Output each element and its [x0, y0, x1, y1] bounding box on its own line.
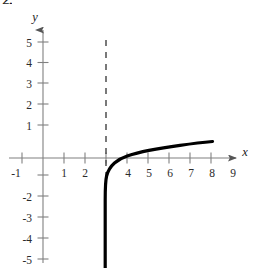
x-tick-label-4: 4 — [125, 167, 131, 179]
coordinate-plot: -1 1 2 4 5 6 7 8 9 5 4 3 2 1 -2 -3 -4 -5… — [0, 0, 260, 268]
y-tick-label-5: 5 — [26, 37, 32, 49]
x-tick-label-neg1: -1 — [11, 167, 21, 179]
x-axis-label: x — [241, 145, 248, 159]
y-tick-label-3: 3 — [26, 78, 32, 90]
y-axis-tick-labels: 5 4 3 2 1 -2 -3 -4 -5 — [22, 37, 32, 266]
x-tick-label-7: 7 — [188, 167, 194, 179]
y-axis-label: y — [30, 10, 38, 24]
x-tick-label-9: 9 — [230, 167, 236, 179]
x-axis-tick-labels: -1 1 2 4 5 6 7 8 9 — [11, 167, 236, 179]
x-tick-label-8: 8 — [209, 167, 215, 179]
figure-container: 2. — [0, 0, 260, 268]
y-tick-label-neg4: -4 — [22, 233, 32, 245]
y-tick-label-neg5: -5 — [22, 254, 32, 266]
x-tick-label-6: 6 — [167, 167, 173, 179]
x-tick-label-1: 1 — [61, 167, 67, 179]
x-tick-label-2: 2 — [82, 167, 88, 179]
y-tick-label-4: 4 — [26, 57, 32, 69]
y-tick-label-neg2: -2 — [22, 191, 32, 203]
problem-number-label: 2. — [2, 0, 12, 4]
function-curve — [105, 142, 212, 268]
y-tick-label-neg3: -3 — [22, 212, 32, 224]
y-tick-label-1: 1 — [26, 120, 32, 132]
x-tick-label-5: 5 — [146, 167, 152, 179]
y-tick-label-2: 2 — [26, 99, 32, 111]
